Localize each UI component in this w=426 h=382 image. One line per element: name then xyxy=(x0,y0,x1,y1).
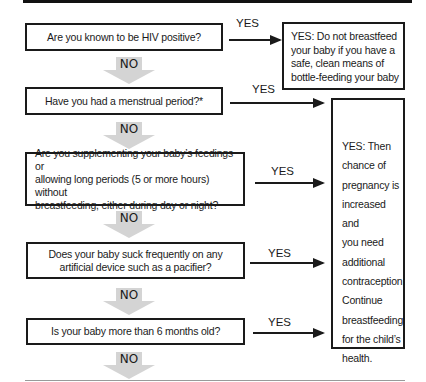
question-line: allowing long periods (5 or more hours) … xyxy=(35,173,243,199)
outcome-line: bottle-feeding your baby xyxy=(291,71,403,85)
question-text: Have you had a menstrual period?* xyxy=(45,95,203,108)
no-arrow-icon: NO xyxy=(103,211,155,239)
outcome-box-pregnancy-risk: YES: Then chance of pregnancy is increas… xyxy=(331,98,405,349)
outcome-line: YES: Do not breastfeed xyxy=(291,30,403,44)
question-text: Are you known to be HIV positive? xyxy=(47,31,201,44)
question-box-menstrual: Have you had a menstrual period?* xyxy=(25,87,223,115)
outcome-line: your baby if you have a xyxy=(291,44,403,58)
yes-arrow-icon xyxy=(230,102,323,104)
yes-arrow-icon xyxy=(250,262,323,264)
bottom-rule xyxy=(25,380,405,381)
yes-label: YES xyxy=(236,17,259,29)
outcome-line: contraception. xyxy=(342,272,403,291)
outcome-line: Continue xyxy=(342,291,403,310)
question-line: artificial device such as a pacifier? xyxy=(48,261,222,274)
yes-label: YES xyxy=(268,316,291,328)
yes-label: YES xyxy=(268,247,291,259)
no-label: NO xyxy=(103,288,155,302)
outcome-line: chance of xyxy=(342,156,403,175)
no-arrow-icon: NO xyxy=(103,352,155,380)
outcome-line: you need xyxy=(342,233,403,252)
question-line: Are you supplementing your baby’s feedin… xyxy=(35,147,243,173)
yes-arrow-icon xyxy=(229,39,280,41)
yes-arrow-icon xyxy=(253,332,323,334)
outcome-line: breastfeeding xyxy=(342,311,403,330)
outcome-box-hiv: YES: Do not breastfeed your baby if you … xyxy=(282,22,405,90)
question-text: Is your baby more than 6 months old? xyxy=(51,325,220,338)
no-arrow-icon: NO xyxy=(103,57,155,85)
outcome-line: health. xyxy=(342,349,403,368)
outcome-line: for the child’s xyxy=(342,330,403,349)
top-rule xyxy=(23,0,412,3)
no-label: NO xyxy=(103,122,155,136)
outcome-line: YES: Then xyxy=(342,137,403,156)
question-box-pacifier: Does your baby suck frequently on any ar… xyxy=(26,242,245,279)
question-line: Does your baby suck frequently on any xyxy=(48,248,222,261)
yes-label: YES xyxy=(252,83,275,95)
question-line: breastfeeding, either during day or nigh… xyxy=(35,199,243,212)
outcome-line: pregnancy is xyxy=(342,176,403,195)
question-box-hiv: Are you known to be HIV positive? xyxy=(25,23,223,51)
no-arrow-icon: NO xyxy=(103,288,155,316)
outcome-line: additional xyxy=(342,253,403,272)
no-label: NO xyxy=(103,211,155,225)
no-label: NO xyxy=(103,57,155,71)
question-box-six-months: Is your baby more than 6 months old? xyxy=(26,318,245,345)
yes-arrow-icon xyxy=(255,182,323,184)
outcome-line: safe, clean means of xyxy=(291,57,403,71)
no-label: NO xyxy=(103,352,155,366)
outcome-line: increased and xyxy=(342,195,403,234)
yes-label: YES xyxy=(271,165,294,177)
question-box-supplementing: Are you supplementing your baby’s feedin… xyxy=(25,152,245,206)
